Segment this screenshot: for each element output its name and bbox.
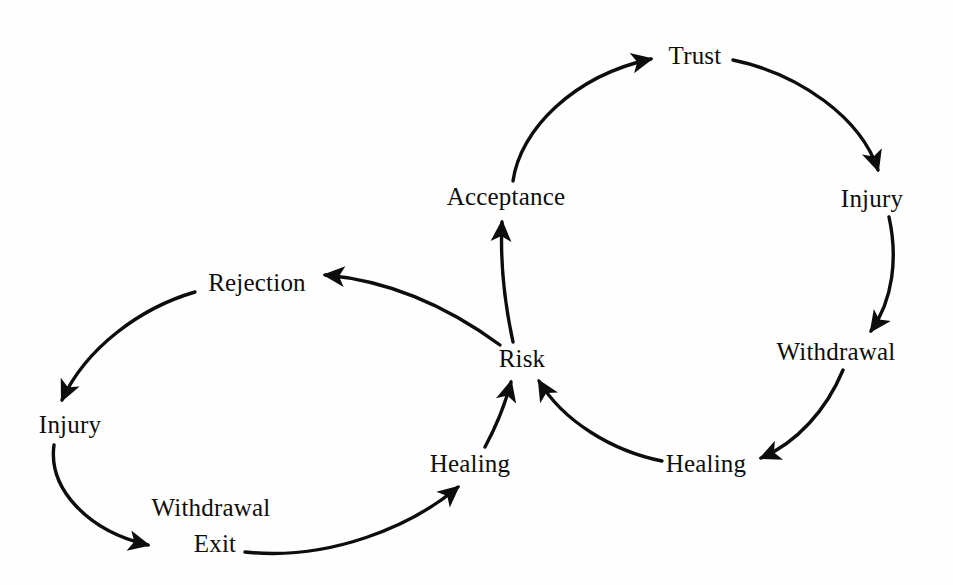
edge-injury-to-withdrawal (871, 217, 893, 331)
node-healing-right[interactable]: Healing (666, 449, 747, 479)
node-withdrawal-exit-line2: Exit (151, 526, 270, 562)
cycle-diagram: Trust Injury Withdrawal Healing Risk Acc… (0, 0, 953, 585)
node-injury-left[interactable]: Injury (39, 410, 101, 440)
node-rejection[interactable]: Rejection (208, 268, 306, 298)
node-healing-left[interactable]: Healing (430, 449, 511, 479)
edge-layer (0, 0, 953, 585)
edge-trust-to-injury (733, 60, 878, 170)
edge-healing-right-to-risk (539, 381, 662, 461)
node-injury-right[interactable]: Injury (841, 184, 903, 214)
edge-exit-to-healing-left (245, 487, 458, 553)
edge-acceptance-to-trust (513, 59, 651, 181)
node-risk[interactable]: Risk (499, 344, 546, 374)
node-acceptance[interactable]: Acceptance (447, 182, 566, 212)
node-withdrawal-exit[interactable]: Withdrawal Exit (151, 490, 270, 563)
edge-healing-left-to-risk (485, 382, 511, 447)
edge-injury-left-to-exit (53, 445, 148, 545)
edge-withdrawal-to-healing (761, 370, 843, 458)
edge-risk-to-acceptance (502, 222, 513, 342)
edge-rejection-to-injury (62, 292, 195, 400)
edge-risk-to-rejection (325, 275, 500, 345)
node-withdrawal-exit-line1: Withdrawal (151, 490, 270, 526)
node-withdrawal-right[interactable]: Withdrawal (776, 337, 895, 367)
node-trust[interactable]: Trust (669, 41, 722, 71)
